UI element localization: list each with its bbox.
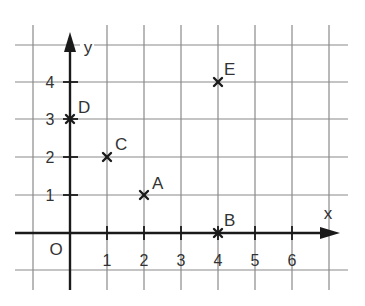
coordinate-plane: 1 2 3 4 5 6 1 2 3 4 x y O A B C [0,0,365,306]
point-label-D: D [78,98,90,117]
y-axis-label: y [84,38,93,57]
x-tick-label: 3 [177,252,186,269]
y-tick-label: 3 [46,111,55,128]
point-label-B: B [224,211,235,230]
point-label-E: E [224,60,235,79]
y-axis-arrow-icon [64,32,76,52]
origin-label: O [49,240,62,259]
point-label-A: A [152,174,164,193]
ticks [63,82,292,240]
x-tick-label: 5 [251,252,260,269]
x-tick-label: 2 [140,252,149,269]
point-label-C: C [115,135,127,154]
y-tick-label: 2 [46,149,55,166]
x-tick-label: 4 [214,252,223,269]
x-tick-label: 6 [288,252,297,269]
y-tick-label: 4 [46,74,55,91]
y-tick-label: 1 [46,187,55,204]
x-axis-arrow-icon [320,227,340,239]
x-axis-label: x [324,204,333,223]
x-tick-label: 1 [103,252,112,269]
